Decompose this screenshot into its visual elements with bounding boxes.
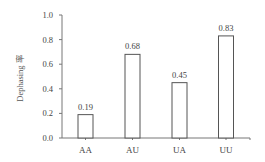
x-category-label: UA <box>173 145 186 155</box>
y-tick-label: 0.2 <box>42 108 53 118</box>
y-axis-title: Dephasing 率 <box>15 54 25 101</box>
bars: 0.190.680.450.83 <box>78 23 234 138</box>
y-tick-label: 0.0 <box>42 133 53 143</box>
bar-aa <box>78 115 93 138</box>
y-axis: 0.00.20.40.60.81.0 <box>42 10 62 143</box>
x-category-label: AU <box>126 145 139 155</box>
y-tick-label: 1.0 <box>42 10 53 20</box>
x-category-label: UU <box>220 145 233 155</box>
bar-value-label: 0.83 <box>219 23 234 33</box>
x-category-label: AA <box>79 145 92 155</box>
bar-chart: 0.00.20.40.60.81.0 AAAUUAUU 0.190.680.45… <box>0 0 265 162</box>
bar-uu <box>219 36 234 138</box>
bar-ua <box>172 83 187 138</box>
y-tick-label: 0.4 <box>42 84 53 94</box>
x-axis: AAAUUAUU <box>62 138 250 155</box>
bar-value-label: 0.45 <box>172 70 187 80</box>
bar-value-label: 0.68 <box>125 41 140 51</box>
bar-value-label: 0.19 <box>78 102 93 112</box>
y-tick-label: 0.8 <box>42 35 53 45</box>
y-tick-label: 0.6 <box>42 59 53 69</box>
bar-au <box>125 54 140 138</box>
